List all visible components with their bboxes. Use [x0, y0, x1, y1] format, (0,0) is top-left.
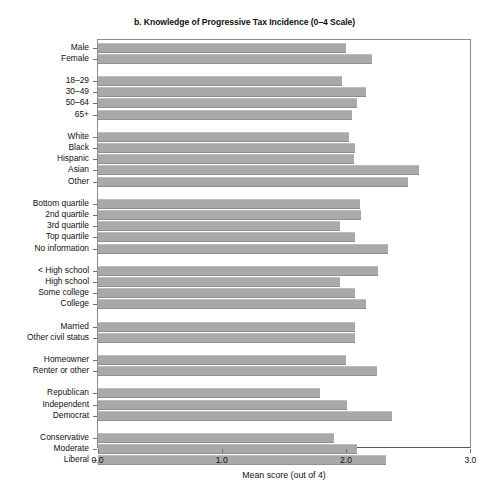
x-tick — [222, 449, 223, 453]
x-tick-label: 3.0 — [450, 455, 489, 465]
x-axis-title: Mean score (out of 4) — [97, 470, 471, 480]
x-tick-label: 1.0 — [202, 455, 242, 465]
x-tick-label: 2.0 — [326, 455, 366, 465]
x-tick — [98, 449, 99, 453]
x-tick — [470, 449, 471, 453]
x-tick-label: 0.0 — [78, 455, 118, 465]
x-tick — [346, 449, 347, 453]
x-axis-ticks-layer: 0.01.02.03.0 — [0, 0, 489, 489]
chart-figure: b. Knowledge of Progressive Tax Incidenc… — [0, 0, 489, 489]
